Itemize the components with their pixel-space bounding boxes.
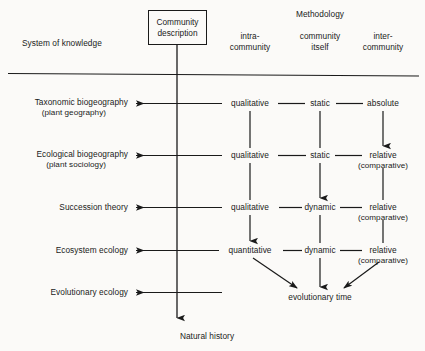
column-header-inter-line2: community: [363, 42, 404, 53]
page-title-system-of-knowledge: System of knowledge: [22, 38, 102, 49]
community-box-line2: description: [157, 28, 197, 39]
row4-cell-inter-line2: (comparative): [358, 256, 408, 267]
methodology-header: Methodology: [296, 9, 344, 20]
row-label-ecosystem-ecology: Ecosystem ecology: [0, 245, 128, 256]
row4-cell-intra: quantitative: [228, 245, 271, 256]
row2-label-line1: Ecological biogeography: [0, 149, 128, 160]
column-header-community-itself: community itself: [300, 31, 341, 52]
row2-cell-itself: static: [310, 150, 330, 161]
column-header-itself-line2: itself: [300, 42, 341, 53]
column-header-intra-community: intra- community: [230, 31, 271, 52]
row1-cell-inter: absolute: [367, 98, 399, 109]
header-divider: [8, 74, 419, 77]
row3-cell-itself: dynamic: [304, 202, 335, 213]
column-header-inter-community: inter- community: [363, 31, 404, 52]
converge-arrow-left: [253, 258, 297, 288]
diagram-canvas: System of knowledge Community descriptio…: [0, 0, 425, 351]
diagram-lines-layer: [0, 0, 425, 351]
row2-label-line2: (plant sociology): [0, 160, 128, 171]
community-description-box: Community description: [148, 10, 207, 45]
column-header-itself-line1: community: [300, 31, 341, 42]
column-header-intra-line2: community: [230, 42, 271, 53]
column-header-inter-line1: inter-: [363, 31, 404, 42]
row1-label-line1: Taxonomic biogeography: [0, 97, 128, 108]
row2-cell-inter: relative (comparative): [358, 150, 408, 171]
row4-cell-inter-line1: relative: [358, 245, 408, 256]
row2-cell-inter-line2: (comparative): [358, 161, 408, 172]
row4-cell-inter: relative (comparative): [358, 245, 408, 266]
row3-cell-inter: relative (comparative): [358, 202, 408, 223]
row3-cell-inter-line2: (comparative): [358, 213, 408, 224]
evolutionary-time-label: evolutionary time: [288, 292, 352, 303]
community-box-line1: Community: [157, 17, 199, 28]
row-label-evolutionary-ecology: Evolutionary ecology: [0, 287, 128, 298]
natural-history-label: Natural history: [180, 331, 234, 342]
row1-label-line2: (plant geography): [0, 108, 128, 119]
row1-cell-itself: static: [310, 98, 330, 109]
row-label-taxonomic-biogeography: Taxonomic biogeography (plant geography): [0, 97, 128, 118]
row3-cell-intra: qualitative: [231, 202, 269, 213]
column-header-intra-line1: intra-: [230, 31, 271, 42]
row-label-succession-theory: Succession theory: [0, 202, 128, 213]
row2-cell-intra: qualitative: [231, 150, 269, 161]
row-label-ecological-biogeography: Ecological biogeography (plant sociology…: [0, 149, 128, 170]
row3-cell-inter-line1: relative: [358, 202, 408, 213]
row2-cell-inter-line1: relative: [358, 150, 408, 161]
row4-cell-itself: dynamic: [304, 245, 335, 256]
row1-cell-intra: qualitative: [231, 98, 269, 109]
